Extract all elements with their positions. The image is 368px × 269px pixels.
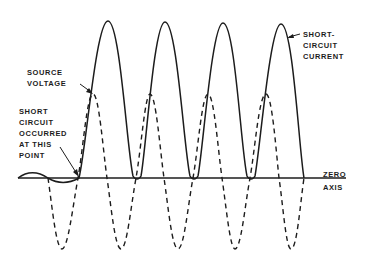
short-circuit-point-label-line3: OCCURRED bbox=[19, 128, 67, 139]
short-circuit-point-label-line5: POINT bbox=[19, 150, 67, 161]
short-circuit-point-label: SHORT CIRCUIT OCCURRED AT THIS POINT bbox=[19, 106, 67, 161]
short-circuit-point-label-line1: SHORT bbox=[19, 106, 67, 117]
zero-axis-label-line2: AXIS bbox=[323, 181, 346, 194]
short-circuit-point-label-line4: AT THIS bbox=[19, 139, 67, 150]
short-circuit-current-label-line1: SHORT- bbox=[303, 29, 344, 40]
short-circuit-point-label-line2: CIRCUIT bbox=[19, 117, 67, 128]
short-circuit-current-leader bbox=[287, 34, 300, 38]
source-voltage-curve bbox=[48, 94, 304, 249]
source-voltage-label: SOURCE VOLTAGE bbox=[27, 67, 66, 89]
diagram-canvas: SOURCE VOLTAGE SHORT CIRCUIT OCCURRED AT… bbox=[0, 0, 368, 269]
zero-axis-label: ZERO AXIS bbox=[323, 168, 346, 194]
source-voltage-label-line1: SOURCE bbox=[27, 67, 66, 78]
short-circuit-current-label-line3: CURRENT bbox=[303, 51, 344, 62]
zero-axis-label-line1: ZERO bbox=[323, 168, 346, 181]
short-circuit-current-label: SHORT- CIRCUIT CURRENT bbox=[303, 29, 344, 62]
short-circuit-current-label-line2: CIRCUIT bbox=[303, 40, 344, 51]
source-voltage-label-line2: VOLTAGE bbox=[27, 78, 66, 89]
